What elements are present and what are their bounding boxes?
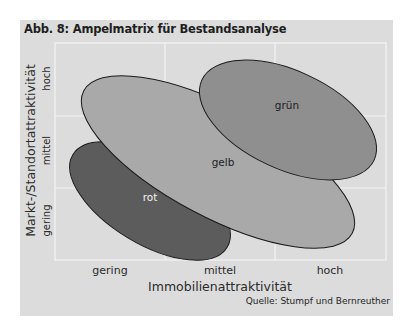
y-tick-mittel: mittel (41, 121, 52, 181)
source-note: Quelle: Stumpf und Bernreuther (246, 296, 390, 306)
y-axis-title: Markt-/Standortattraktivität (23, 41, 38, 261)
region-label-rot: rot (143, 191, 158, 203)
y-tick-hoch: hoch (41, 49, 52, 109)
x-tick-hoch: hoch (290, 264, 370, 277)
x-axis-title: Immobilienattraktivität (100, 279, 340, 294)
y-tick-gering: gering (41, 191, 52, 251)
x-tick-gering: gering (70, 264, 150, 277)
region-label-gruen: grün (275, 99, 299, 111)
x-tick-mittel: mittel (180, 264, 260, 277)
region-label-gelb: gelb (212, 156, 235, 168)
